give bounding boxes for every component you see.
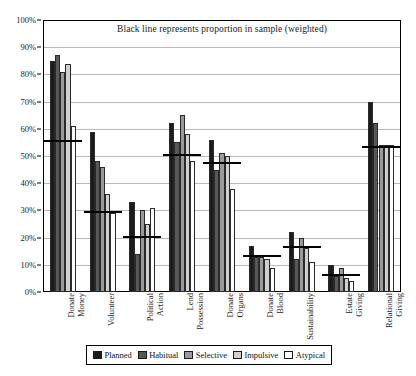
y-axis-tick-mark [37, 128, 41, 129]
y-axis-tick-label: 80% [20, 69, 36, 79]
x-axis-tick-label: Relational Giving [385, 293, 404, 363]
legend-label: Planned [104, 350, 131, 360]
bar [71, 126, 76, 292]
y-axis-tick-label: 100% [16, 15, 36, 25]
bar-group [123, 20, 163, 292]
y-axis-tick-label: 90% [20, 42, 36, 52]
legend-swatch [93, 351, 102, 359]
bar-group [83, 20, 123, 292]
reference-line [322, 274, 360, 276]
reference-line [163, 154, 201, 156]
y-axis-tick-mark [37, 20, 41, 21]
bar [190, 161, 195, 292]
reference-line [44, 140, 82, 142]
legend-label: Impulsive [244, 350, 278, 360]
y-axis-tick-mark [37, 237, 41, 238]
y-axis-tick-mark [37, 183, 41, 184]
chart-legend: PlannedHabitualSelectiveImpulsiveAtypica… [86, 345, 332, 365]
bar-group [43, 20, 83, 292]
bar [389, 145, 394, 292]
legend-item: Impulsive [233, 350, 279, 360]
bar-group [361, 20, 401, 292]
y-axis-tick-label: 60% [20, 124, 36, 134]
y-axis-tick-mark [37, 264, 41, 265]
y-axis-tick-label: 0% [25, 287, 36, 297]
y-axis-tick-mark [37, 74, 41, 75]
legend-item: Planned [93, 350, 132, 360]
bar-group [321, 20, 361, 292]
legend-swatch [284, 351, 293, 359]
reference-line [362, 146, 400, 148]
x-axis-tick-label: Donate Money [67, 293, 86, 363]
x-axis-tick-label: Estate Giving [345, 293, 364, 363]
bar [309, 262, 314, 292]
legend-swatch [184, 351, 193, 359]
y-axis-tick-label: 30% [20, 205, 36, 215]
y-axis-tick-label: 70% [20, 97, 36, 107]
bar [150, 208, 155, 292]
chart-figure: 0%10%20%30%40%50%60%70%80%90%100% Black … [0, 0, 416, 376]
y-axis-tick-mark [37, 101, 41, 102]
reference-line [84, 211, 122, 213]
reference-line [283, 246, 321, 248]
y-axis-tick-label: 10% [20, 260, 36, 270]
bar-group [202, 20, 242, 292]
y-axis-tick-mark [37, 292, 41, 293]
y-axis: 0%10%20%30%40%50%60%70%80%90%100% [0, 20, 41, 292]
bar [110, 213, 115, 292]
y-axis-tick-label: 50% [20, 151, 36, 161]
bar-group [282, 20, 322, 292]
y-axis-tick-mark [37, 156, 41, 157]
y-axis-tick-label: 20% [20, 233, 36, 243]
reference-line [123, 236, 161, 238]
legend-swatch [138, 351, 147, 359]
reference-line [203, 162, 241, 164]
y-axis-tick-mark [37, 47, 41, 48]
bar [230, 189, 235, 292]
legend-item: Atypical [284, 350, 325, 360]
y-axis-tick-mark [37, 210, 41, 211]
legend-label: Habitual [149, 350, 178, 360]
y-axis-tick-label: 40% [20, 178, 36, 188]
legend-item: Habitual [138, 350, 179, 360]
legend-swatch [233, 351, 242, 359]
legend-item: Selective [184, 350, 227, 360]
reference-line [243, 255, 281, 257]
bar [270, 268, 275, 292]
bar [349, 281, 354, 292]
bar-group [162, 20, 202, 292]
bars-layer [43, 20, 401, 292]
legend-label: Selective [196, 350, 227, 360]
bar-group [242, 20, 282, 292]
legend-label: Atypical [296, 350, 325, 360]
